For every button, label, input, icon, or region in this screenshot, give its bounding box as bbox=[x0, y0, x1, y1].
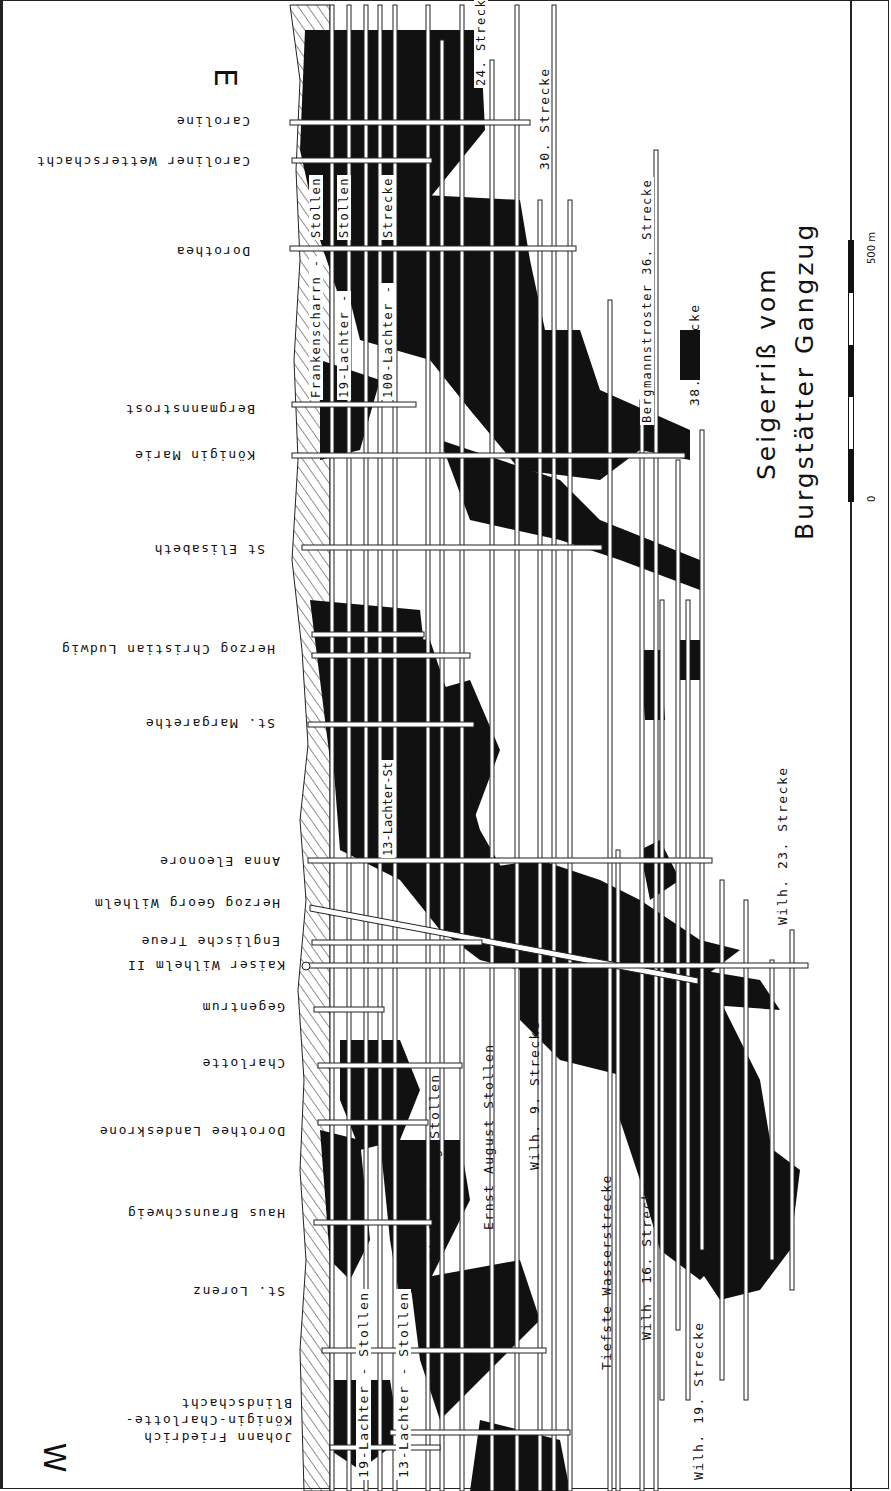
shaft-label-anna-eleonore: Anna Eleonore bbox=[159, 855, 280, 868]
level-label-wilh-9-strecke: Wilh. 9. Strecke bbox=[528, 1021, 541, 1170]
headframe-marker bbox=[302, 962, 310, 970]
shaft-label-blindschacht: Blindschacht bbox=[180, 1397, 292, 1410]
shaft-label-caroline: Caroline bbox=[175, 115, 250, 128]
shaft-label-herzog-georg-wilhelm: Herzog Georg Wilhelm bbox=[93, 897, 280, 910]
level-label-bergmannstroster-36-strecke: Bergmannstroster 36. Strecke bbox=[640, 177, 654, 425]
scale-bar bbox=[848, 240, 854, 502]
shaft-label-kaiser-wilhelm-ii: Kaiser Wilhelm II bbox=[126, 959, 285, 972]
shaft-label-koenigin-marie: Königin Marie bbox=[134, 449, 255, 462]
shaft-label-herzog-christian-ludwig: Herzog Christian Ludwig bbox=[60, 643, 275, 656]
direction-west: W bbox=[37, 1443, 72, 1473]
scale-label-0: 0 bbox=[866, 496, 877, 502]
shaft-label-johann-friedrich: Johann Friedrich bbox=[143, 1431, 292, 1444]
level-label-tiefer-georg-stollen: Tiefer Georg Stollen bbox=[428, 1073, 441, 1260]
level-label-19-lachter-e: 19-Lachter - bbox=[337, 291, 351, 400]
level-label-wilh-23-strecke: Wilh. 23. Strecke bbox=[776, 766, 789, 925]
level-label-19-lachter-e-stollen: Stollen bbox=[337, 175, 351, 240]
shaft-label-st-margarethe: St. Margarethe bbox=[144, 717, 275, 730]
direction-east: E bbox=[208, 68, 243, 87]
shaft-label-st-lorenz: St. Lorenz bbox=[192, 1285, 285, 1298]
shaft-label-englische-treue: Englische Treue bbox=[140, 935, 280, 948]
level-label-frankenscharrn-stollen: Stollen bbox=[309, 175, 323, 240]
shaft-label-gegentrum: Gegentrum bbox=[201, 1001, 285, 1014]
shaft-label-dorothea: Dorothea bbox=[175, 245, 250, 258]
section-drawing bbox=[0, 0, 891, 1491]
level-label-13-lachter-w: 13-Lachter - Stollen bbox=[396, 1289, 411, 1480]
level-label-30-strecke: 30. Strecke bbox=[538, 67, 551, 170]
level-label-ernst-august-stollen: Ernst August Stollen bbox=[482, 1043, 495, 1230]
level-label-38-strecke: 38. Strecke bbox=[688, 303, 701, 406]
shaft-label-charlotte: Charlotte bbox=[201, 1057, 285, 1070]
shaft-label-haus-braunschweig: Haus Braunschweig bbox=[126, 1207, 285, 1220]
shaft-label-dorothee-landeskrone: Dorothee Landeskrone bbox=[98, 1125, 285, 1138]
level-label-19-lachter-w: 19-Lachter - Stollen bbox=[356, 1289, 371, 1480]
level-label-100-lachter: 100-Lachter - bbox=[381, 283, 395, 400]
diagram-title-line1: Seigerriß vom bbox=[752, 266, 781, 480]
diagram-title-line2: Burgstätter Gangzug bbox=[790, 222, 819, 540]
level-label-13-lachter-st: 13-Lachter-St bbox=[381, 760, 395, 858]
level-label-24-strecke: 24. Strecke bbox=[474, 0, 488, 88]
level-label-tiefste-wasserstrecke: Tiefste Wasserstrecke bbox=[600, 1174, 613, 1370]
shaft-label-caroliner-wetterschacht: Caroliner Wetterschacht bbox=[35, 155, 250, 168]
shaft-label-koenigin-charlotte: Königin-Charlotte- bbox=[124, 1414, 292, 1427]
level-label-frankenscharrn: Frankenscharrn - bbox=[309, 256, 323, 400]
level-label-wilh-16-strecke: Wilh. 16. Strecke bbox=[640, 1181, 653, 1340]
scale-label-500m: 500 m bbox=[866, 232, 877, 264]
level-label-100-lachter-strecke: Strecke bbox=[381, 175, 395, 240]
level-label-wilh-19-strecke: Wilh. 19. Strecke bbox=[692, 1321, 705, 1480]
shaft-label-bergmannstrost: Bergmannstrost bbox=[124, 403, 255, 416]
shaft-label-st-elisabeth: St Elisabeth bbox=[153, 543, 265, 556]
